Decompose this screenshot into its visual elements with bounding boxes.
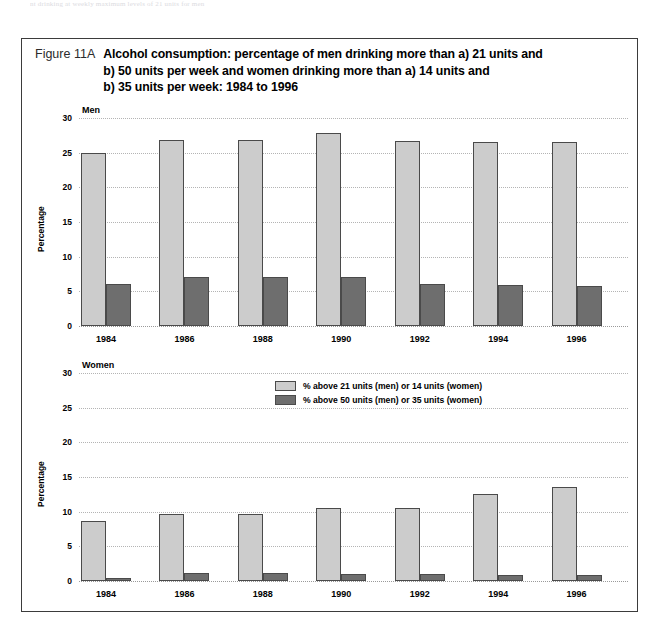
- bar-women-1984-series1: [81, 521, 106, 581]
- bar-women-1986-series2: [184, 573, 209, 581]
- panel-title-men: Men: [82, 105, 100, 115]
- gridline-women-15: [79, 477, 628, 478]
- legend-item-2: % above 50 units (men) or 35 units (wome…: [275, 395, 482, 405]
- x-tick-label: 1994: [468, 589, 528, 599]
- legend-label: % above 21 units (men) or 14 units (wome…: [303, 381, 482, 391]
- gridline-men-0: [79, 326, 628, 327]
- bar-women-1996-series1: [552, 487, 577, 581]
- legend-label: % above 50 units (men) or 35 units (wome…: [303, 395, 482, 405]
- gridline-women-10: [79, 512, 628, 513]
- x-tick-label: 1996: [547, 589, 607, 599]
- bar-men-1988-series2: [263, 277, 288, 326]
- x-tick-label: 1984: [76, 334, 136, 344]
- bar-women-1988-series2: [263, 573, 288, 581]
- bar-women-1992-series2: [420, 574, 445, 581]
- bar-women-1986-series1: [159, 514, 184, 581]
- figure-frame: Figure 11A Alcohol consumption: percenta…: [21, 38, 638, 612]
- bar-women-1990-series1: [316, 508, 341, 581]
- y-tick-label: 15: [46, 472, 72, 482]
- gridline-men-30: [79, 118, 628, 119]
- bar-men-1984-series1: [81, 153, 106, 326]
- panel-title-women: Women: [82, 360, 114, 370]
- x-tick-label: 1994: [468, 334, 528, 344]
- bar-women-1984-series2: [106, 578, 131, 581]
- gridline-women-25: [79, 408, 628, 409]
- y-tick-label: 15: [46, 217, 72, 227]
- bar-women-1994-series2: [498, 575, 523, 581]
- x-tick-label: 1996: [547, 334, 607, 344]
- bar-men-1986-series2: [184, 277, 209, 326]
- legend-swatch-light: [275, 381, 296, 391]
- x-tick-label: 1990: [311, 589, 371, 599]
- x-tick-label: 1986: [154, 589, 214, 599]
- bar-men-1994-series2: [498, 285, 523, 326]
- bar-men-1988-series1: [238, 140, 263, 326]
- y-tick-label: 5: [46, 541, 72, 551]
- figure-title: Alcohol consumption: percentage of men d…: [103, 46, 543, 96]
- figure-title-line-3: b) 35 units per week: 1984 to 1996: [103, 79, 543, 96]
- bar-men-1990-series2: [341, 277, 366, 326]
- bar-men-1990-series1: [316, 133, 341, 326]
- figure-title-line-2: b) 50 units per week and women drinking …: [103, 63, 543, 80]
- x-tick-label: 1988: [233, 589, 293, 599]
- bar-men-1984-series2: [106, 284, 131, 326]
- y-tick-label: 20: [46, 437, 72, 447]
- page-running-text: nt drinking at weekly maximum levels of …: [30, 0, 450, 10]
- y-tick-label: 20: [46, 182, 72, 192]
- figure-number: Figure 11A: [35, 46, 103, 63]
- figure-caption: Figure 11A Alcohol consumption: percenta…: [35, 46, 631, 96]
- bar-women-1992-series1: [395, 508, 420, 581]
- x-tick-label: 1990: [311, 334, 371, 344]
- x-tick-label: 1988: [233, 334, 293, 344]
- bar-men-1996-series1: [552, 142, 577, 326]
- bar-men-1992-series1: [395, 141, 420, 326]
- legend-swatch-dark: [275, 395, 296, 405]
- y-tick-label: 0: [46, 321, 72, 331]
- bar-women-1994-series1: [473, 494, 498, 581]
- gridline-women-30: [79, 373, 628, 374]
- y-axis-title-women: Percentage: [36, 461, 46, 507]
- y-tick-label: 5: [46, 286, 72, 296]
- bar-men-1986-series1: [159, 140, 184, 326]
- y-tick-label: 25: [46, 148, 72, 158]
- y-axis-title-men: Percentage: [36, 206, 46, 252]
- gridline-women-0: [79, 581, 628, 582]
- x-tick-label: 1992: [390, 334, 450, 344]
- gridline-women-20: [79, 442, 628, 443]
- bar-women-1990-series2: [341, 574, 366, 581]
- x-tick-label: 1992: [390, 589, 450, 599]
- legend-item-1: % above 21 units (men) or 14 units (wome…: [275, 381, 482, 391]
- bar-men-1994-series1: [473, 142, 498, 326]
- y-tick-label: 25: [46, 403, 72, 413]
- y-tick-label: 0: [46, 576, 72, 586]
- bar-men-1996-series2: [577, 286, 602, 326]
- y-tick-label: 10: [46, 252, 72, 262]
- y-tick-label: 10: [46, 507, 72, 517]
- bar-women-1996-series2: [577, 575, 602, 581]
- bar-men-1992-series2: [420, 284, 445, 326]
- x-tick-label: 1984: [76, 589, 136, 599]
- figure-title-line-1: Alcohol consumption: percentage of men d…: [103, 46, 543, 63]
- y-tick-label: 30: [46, 113, 72, 123]
- x-tick-label: 1986: [154, 334, 214, 344]
- y-tick-label: 30: [46, 368, 72, 378]
- bar-women-1988-series1: [238, 514, 263, 581]
